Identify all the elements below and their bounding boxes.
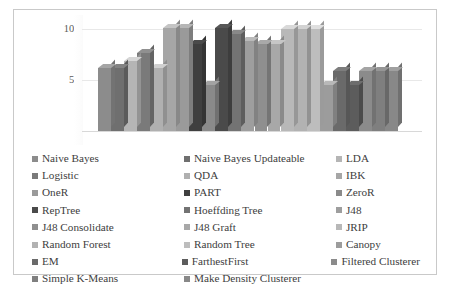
legend-item[interactable]: Naive Bayes — [32, 153, 184, 164]
legend-row: J48 ConsolidateJ48 GraftJRIP — [32, 219, 420, 236]
bar-side-face — [280, 36, 284, 127]
bar-side-face — [254, 33, 258, 127]
bar — [98, 68, 111, 131]
bar-side-face — [176, 20, 180, 127]
legend-item[interactable]: Simple K-Means — [32, 273, 184, 284]
bar-side-face — [163, 59, 167, 127]
legend-item[interactable]: J48 Consolidate — [32, 222, 184, 233]
legend-item[interactable]: Make Density Clusterer — [184, 273, 336, 284]
legend-swatch-icon — [336, 207, 342, 213]
legend-swatch-icon — [184, 156, 190, 162]
bar-side-face — [267, 36, 271, 127]
legend-swatch-icon — [331, 259, 337, 265]
legend-label: Canopy — [346, 239, 381, 250]
legend-label: Random Tree — [194, 239, 255, 250]
legend-item[interactable]: QDA — [184, 170, 336, 181]
legend-item[interactable]: FarthestFirst — [182, 256, 332, 267]
legend-row: Naive BayesNaive Bayes UpdateableLDA — [32, 150, 420, 167]
legend-swatch-icon — [32, 156, 38, 162]
legend-label: Random Forest — [42, 239, 111, 250]
legend-label: PART — [194, 187, 221, 198]
bar-side-face — [111, 59, 115, 127]
legend-row: Random ForestRandom TreeCanopy — [32, 236, 420, 253]
legend-item[interactable]: Random Forest — [32, 239, 184, 250]
chart-frame: 050100 Naive BayesNaive Bayes Updateable… — [13, 9, 437, 275]
bar-side-face — [320, 21, 324, 127]
legend-item[interactable]: PART — [184, 187, 336, 198]
bar-side-face — [189, 20, 193, 127]
legend-row: OneRPARTZeroR — [32, 184, 420, 201]
legend-swatch-icon — [336, 156, 342, 162]
legend-item[interactable]: IBK — [336, 170, 365, 181]
legend-item[interactable]: Logistic — [32, 170, 184, 181]
legend-swatch-icon — [32, 207, 38, 213]
legend-label: J48 Consolidate — [42, 222, 114, 233]
bar-side-face — [346, 62, 350, 127]
legend-swatch-icon — [32, 224, 38, 230]
bar-side-face — [385, 62, 389, 127]
legend-label: ZeroR — [346, 187, 375, 198]
legend-label: Hoeffding Tree — [194, 205, 262, 216]
legend-label: RepTree — [42, 205, 80, 216]
legend-swatch-icon — [184, 242, 190, 248]
legend-row: LogisticQDAIBK — [32, 167, 420, 184]
legend-label: LDA — [346, 153, 369, 164]
legend-label: Filtered Clusterer — [341, 256, 420, 267]
legend-item[interactable]: ZeroR — [336, 187, 375, 198]
legend-swatch-icon — [32, 190, 38, 196]
legend-label: Simple K-Means — [42, 273, 118, 284]
legend-swatch-icon — [184, 190, 190, 196]
bar-side-face — [372, 62, 376, 127]
legend-swatch-icon — [184, 207, 190, 213]
bar-side-face — [241, 26, 245, 127]
legend-swatch-icon — [182, 259, 188, 265]
legend-item[interactable]: OneR — [32, 187, 184, 198]
legend-item[interactable]: J48 — [336, 205, 362, 216]
legend-label: Naive Bayes Updateable — [194, 153, 305, 164]
legend-item[interactable]: LDA — [336, 153, 369, 164]
legend-item[interactable]: Random Tree — [184, 239, 336, 250]
bar-series-group — [82, 15, 422, 145]
legend-label: J48 Graft — [194, 222, 236, 233]
legend-swatch-icon — [184, 224, 190, 230]
legend-item[interactable]: J48 Graft — [184, 222, 336, 233]
bar-side-face — [398, 62, 402, 127]
bar-side-face — [150, 44, 154, 127]
legend-label: EM — [42, 256, 59, 267]
legend-swatch-icon — [32, 276, 38, 282]
legend-swatch-icon — [336, 190, 342, 196]
legend-label: JRIP — [346, 222, 368, 233]
legend-label: IBK — [346, 170, 365, 181]
chart-legend: Naive BayesNaive Bayes UpdateableLDALogi… — [14, 150, 438, 284]
legend-item[interactable]: Canopy — [336, 239, 381, 250]
legend-row: RepTreeHoeffding TreeJ48 — [32, 202, 420, 219]
legend-item[interactable]: Naive Bayes Updateable — [184, 153, 336, 164]
legend-item[interactable]: Filtered Clusterer — [331, 256, 420, 267]
legend-swatch-icon — [336, 173, 342, 179]
legend-row: Simple K-MeansMake Density Clusterer — [32, 270, 420, 284]
bar-side-face — [294, 21, 298, 127]
legend-row: EMFarthestFirstFiltered Clusterer — [32, 253, 420, 270]
legend-item[interactable]: RepTree — [32, 205, 184, 216]
bar-side-face — [307, 21, 311, 127]
plot-area: 050100 — [14, 15, 438, 145]
bar-side-face — [228, 20, 232, 127]
bar-side-face — [137, 52, 141, 127]
legend-swatch-icon — [32, 173, 38, 179]
legend-label: Logistic — [42, 170, 79, 181]
legend-label: OneR — [42, 187, 68, 198]
legend-swatch-icon — [184, 276, 190, 282]
legend-label: Make Density Clusterer — [194, 273, 301, 284]
bar-face — [98, 68, 111, 131]
legend-swatch-icon — [32, 259, 38, 265]
legend-label: Naive Bayes — [42, 153, 99, 164]
legend-swatch-icon — [32, 242, 38, 248]
legend-item[interactable]: EM — [32, 256, 182, 267]
legend-label: J48 — [346, 205, 362, 216]
bar-side-face — [202, 36, 206, 127]
legend-item[interactable]: JRIP — [336, 222, 368, 233]
bar-side-face — [215, 77, 219, 127]
legend-swatch-icon — [184, 173, 190, 179]
legend-label: FarthestFirst — [192, 256, 249, 267]
legend-item[interactable]: Hoeffding Tree — [184, 205, 336, 216]
